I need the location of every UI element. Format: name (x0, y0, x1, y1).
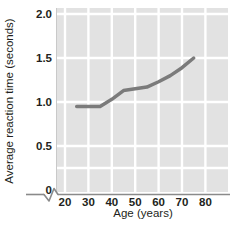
plot-area-background (56, 8, 228, 192)
y-tick-label: 2.0 (36, 8, 52, 20)
reaction-time-line-chart: 00.51.01.52.0 20304050607080 Age (years)… (0, 0, 238, 227)
x-tick-label: 30 (82, 196, 95, 208)
y-tick-label: 0.5 (36, 140, 53, 152)
y-axis-tick-labels: 00.51.01.52.0 (36, 8, 53, 196)
y-tick-label: 1.5 (36, 52, 53, 64)
x-tick-label: 20 (59, 196, 72, 208)
y-axis-title: Average reaction time (seconds) (3, 18, 15, 184)
chart-figure: 00.51.01.52.0 20304050607080 Age (years)… (0, 0, 238, 227)
y-tick-label: 0 (46, 184, 52, 196)
y-tick-label: 1.0 (36, 96, 52, 108)
x-axis-title: Age (years) (113, 207, 173, 219)
x-tick-label: 70 (176, 196, 189, 208)
x-tick-label: 80 (199, 196, 212, 208)
